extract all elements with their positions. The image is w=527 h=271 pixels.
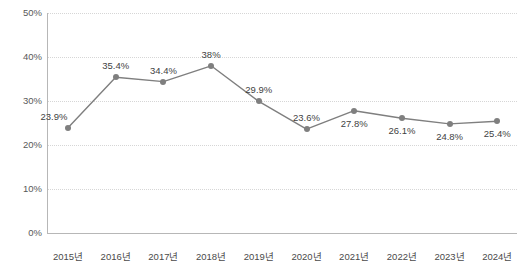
x-axis-tick-label: 2015년 [53,249,83,263]
data-point-marker [304,126,310,132]
data-point-marker [65,125,71,131]
x-axis-line [47,233,517,234]
data-point-label: 25.4% [484,128,511,139]
data-point-marker [399,115,405,121]
y-axis-tick-label: 40% [6,51,42,62]
data-point-marker [208,63,214,69]
gridline [48,101,517,102]
data-point-marker [494,118,500,124]
data-point-label: 29.9% [245,84,272,95]
y-axis-tick-label: 30% [6,95,42,106]
data-point-label: 35.4% [102,60,129,71]
y-axis-line [47,13,48,234]
x-axis-tick-label: 2019년 [244,249,274,263]
x-axis-tick-label: 2020년 [291,249,321,263]
x-axis-tick-label: 2023년 [435,249,465,263]
data-point-label: 34.4% [150,65,177,76]
data-point-marker [447,121,453,127]
y-axis-tick-label: 50% [6,7,42,18]
gridline [48,189,517,190]
x-axis-tick-label: 2018년 [196,249,226,263]
gridline [48,145,517,146]
data-point-label: 38% [202,49,221,60]
data-point-marker [351,108,357,114]
line-chart: 0%10%20%30%40%50% 2015년2016년2017년2018년20… [0,0,527,271]
data-point-label: 23.6% [293,112,320,123]
y-axis-tick-label: 10% [6,183,42,194]
data-point-marker [113,74,119,80]
data-point-label: 24.8% [436,131,463,142]
y-axis-tick-label: 20% [6,139,42,150]
gridline [48,57,517,58]
data-point-label: 26.1% [388,125,415,136]
data-point-label: 23.9% [41,111,68,122]
x-axis-tick-label: 2017년 [148,249,178,263]
data-point-label: 27.8% [341,118,368,129]
gridline [48,13,517,14]
data-point-marker [256,98,262,104]
x-axis-tick-label: 2021년 [339,249,369,263]
data-point-marker [160,79,166,85]
x-axis-tick-label: 2024년 [482,249,512,263]
y-axis-tick-label: 0% [6,227,42,238]
x-axis-tick-label: 2016년 [101,249,131,263]
x-axis-tick-label: 2022년 [387,249,417,263]
